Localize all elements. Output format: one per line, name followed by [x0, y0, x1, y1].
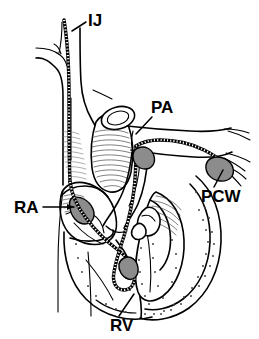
label-pcw-text: PCW: [201, 187, 242, 206]
label-rv-text: RV: [110, 316, 134, 335]
label-ra-text: RA: [14, 198, 39, 217]
label-pa-text: PA: [151, 98, 173, 117]
label-ij-text: IJ: [88, 11, 102, 30]
heart-catheter-figure: IJ PA PCW RA RV: [0, 0, 259, 339]
heart-diagram-svg: IJ PA PCW RA RV: [0, 0, 259, 339]
laa-tip: [132, 223, 146, 239]
catheter-balloon-pa: [133, 147, 155, 169]
